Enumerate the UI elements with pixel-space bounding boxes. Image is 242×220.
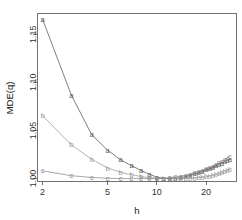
data-point-c: c <box>106 174 110 183</box>
data-point-b: b <box>69 140 73 149</box>
chart-container: 1.001.051.101.15 251020 aaaaaaaaaaaaaaaa… <box>0 0 242 220</box>
x-tick-label: 20 <box>201 187 211 197</box>
data-point-c: c <box>147 174 151 183</box>
data-point-c: c <box>90 173 94 182</box>
y-tick-label: 1.15 <box>28 25 38 43</box>
data-point-c: c <box>130 174 134 183</box>
mde-vs-h-line-chart: 1.001.051.101.15 251020 aaaaaaaaaaaaaaaa… <box>0 0 242 220</box>
data-point-c: c <box>162 174 166 183</box>
plot-frame <box>37 13 236 181</box>
data-point-c: c <box>228 152 232 161</box>
data-point-c: c <box>119 174 123 183</box>
plot-border <box>37 13 236 181</box>
data-point-c: c <box>139 174 143 183</box>
data-point-b: b <box>106 164 110 173</box>
data-point-a: a <box>118 155 123 164</box>
series-a: aaaaaaaaaaaaaaaaaaaaaaaaaaa <box>40 15 232 183</box>
data-series-group: aaaaaaaaaaaaaaaaaaaaaaaaaaabbbbbbbbbbbbb… <box>40 15 232 183</box>
y-tick-label: 1.05 <box>28 122 38 140</box>
data-point-c: c <box>168 173 172 182</box>
y-tick-label: 1.00 <box>28 170 38 188</box>
data-point-a: a <box>69 91 74 100</box>
data-point-c: c <box>174 172 178 181</box>
data-point-c: c <box>41 166 45 175</box>
data-point-c: c <box>155 174 159 183</box>
x-tick-label: 2 <box>40 187 45 197</box>
x-axis-title: h <box>134 205 139 216</box>
data-point-a: a <box>90 130 95 139</box>
x-tick-label: 10 <box>152 187 162 197</box>
y-axis-title: MDE(q) <box>4 82 15 115</box>
data-point-c: c <box>184 171 188 180</box>
data-point-b: b <box>40 111 44 120</box>
x-tick-label: 5 <box>105 187 110 197</box>
data-point-c: c <box>179 172 183 181</box>
x-axis-ticks: 251020 <box>40 181 211 197</box>
data-point-c: c <box>69 171 73 180</box>
data-point-b: b <box>228 165 232 174</box>
data-point-a: a <box>106 146 111 155</box>
data-point-a: a <box>129 161 134 170</box>
data-point-a: a <box>40 15 45 24</box>
y-tick-label: 1.10 <box>28 74 38 92</box>
data-point-b: b <box>90 155 94 164</box>
